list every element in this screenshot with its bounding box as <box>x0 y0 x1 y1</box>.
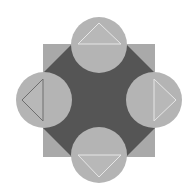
geometric-diagram <box>0 0 194 185</box>
